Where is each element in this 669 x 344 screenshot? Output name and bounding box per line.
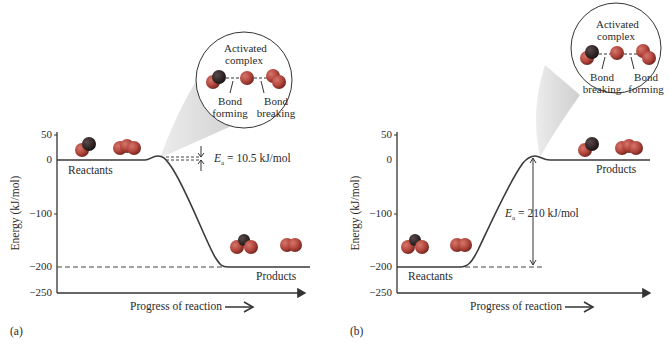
y-axis-label: Energy (kJ/mol) [349, 168, 361, 258]
y-tick-0: 0 [22, 154, 52, 165]
products-label: Products [596, 164, 636, 176]
y-tick-50: 50 [22, 129, 52, 140]
y-tick-neg250: −250 [362, 287, 392, 298]
y-tick-0: 0 [362, 154, 392, 165]
reactant-molecules [401, 234, 472, 254]
activation-energy-label: Ea = 10.5 kJ/mol [214, 153, 291, 167]
energy-diagram-a: 50 0 −100 −200 −250 Energy (kJ/mol) Prog… [0, 0, 340, 344]
activation-energy-label: Ea = 210 kJ/mol [505, 208, 579, 222]
y-tick-neg100: −100 [22, 208, 52, 219]
callout-title: Activated complex [224, 42, 264, 66]
x-axis-label: Progress of reaction [470, 301, 562, 313]
y-tick-neg100: −100 [362, 208, 392, 219]
products-label: Products [256, 271, 296, 283]
y-axis-label: Energy (kJ/mol) [9, 168, 21, 258]
y-tick-neg200: −200 [22, 261, 52, 272]
y-tick-neg250: −250 [22, 287, 52, 298]
callout-left-label: Bond breaking [578, 71, 626, 95]
reactants-label: Reactants [408, 271, 453, 283]
callout-title: Activated complex [596, 18, 636, 42]
reactant-molecules [75, 137, 141, 157]
product-molecules [578, 137, 643, 157]
energy-diagram-b: 50 0 −100 −200 −250 Energy (kJ/mol) Prog… [340, 0, 669, 344]
panel-tag: (a) [10, 326, 23, 338]
callout-cone [536, 65, 580, 157]
progress-arrow-icon [565, 302, 593, 312]
callout-left-label: Bond forming [208, 95, 252, 119]
panel-tag: (b) [350, 326, 363, 338]
x-axis-label: Progress of reaction [130, 301, 222, 313]
y-tick-50: 50 [362, 129, 392, 140]
callout-right-label: Bond breaking [252, 95, 300, 119]
callout-right-label: Bond forming [624, 71, 668, 95]
progress-arrow-icon [225, 302, 253, 312]
ea-arrows [198, 146, 204, 171]
product-molecules [230, 234, 302, 254]
y-tick-neg200: −200 [362, 261, 392, 272]
reactants-label: Reactants [68, 165, 113, 177]
